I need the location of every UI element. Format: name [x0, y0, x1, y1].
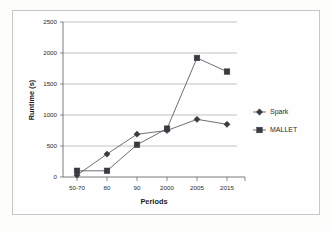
y-tick-label: 1500	[43, 80, 57, 87]
data-point-mallet-80	[104, 168, 110, 174]
y-tick-label: 2500	[43, 18, 57, 25]
y-tick-label: 500	[47, 142, 58, 149]
data-point-mallet-2005	[194, 55, 200, 61]
legend-item-spark: Spark	[270, 108, 289, 116]
gridlines	[63, 22, 237, 146]
data-point-spark-2015	[224, 121, 230, 127]
x-tick-label: 80	[104, 184, 111, 191]
data-point-mallet-50-70	[74, 168, 80, 174]
y-tick-label: 1000	[43, 111, 57, 118]
axis-lines	[63, 22, 245, 177]
square-marker	[257, 127, 263, 133]
data-point-spark-90	[134, 131, 140, 137]
x-tick-marks	[77, 177, 245, 181]
legend: Spark MALLET	[253, 108, 298, 133]
chart-figure: 2500 2000 1500 1000 500 0 50-70 80 90 20…	[0, 0, 332, 231]
data-point-mallet-2000	[164, 126, 170, 132]
legend-item-mallet: MALLET	[270, 126, 298, 133]
x-tick-label: 2005	[190, 184, 204, 191]
x-axis-title: Periods	[140, 197, 167, 206]
x-tick-labels: 50-70 80 90 2000 2005 2015	[69, 184, 234, 191]
data-point-spark-2005	[194, 116, 200, 122]
series-layer	[74, 55, 230, 178]
y-tick-label: 2000	[43, 49, 57, 56]
data-point-mallet-2015	[224, 69, 230, 75]
diamond-marker	[256, 109, 262, 115]
x-tick-label: 2000	[160, 184, 174, 191]
series-line-mallet	[77, 58, 227, 171]
y-axis-title: Runtime (s)	[27, 79, 36, 120]
x-tick-label: 50-70	[69, 184, 85, 191]
y-tick-labels: 2500 2000 1500 1000 500 0	[43, 18, 57, 180]
y-tick-label: 0	[54, 173, 58, 180]
line-chart: 2500 2000 1500 1000 500 0 50-70 80 90 20…	[0, 0, 332, 231]
y-tick-marks	[60, 22, 63, 177]
x-tick-label: 2015	[220, 184, 234, 191]
data-point-mallet-90	[134, 142, 140, 148]
x-tick-label: 90	[134, 184, 141, 191]
data-point-spark-80	[104, 151, 110, 157]
series-line-spark	[77, 119, 227, 175]
